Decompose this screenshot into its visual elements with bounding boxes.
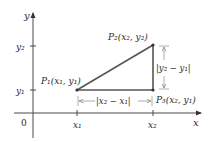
p1-label: P₁(x₁, y₁) [40,76,81,86]
hypotenuse-p1-p2 [77,45,153,90]
point-p2 [151,43,154,46]
y2-tick-label: y₂ [15,42,25,52]
v-meas-label: |y₂ − y₁| [156,63,191,74]
horizontal-measurement: |x₂ − x₁| [78,96,152,107]
axes: y x 0 y₂ y₁ x₁ x₂ [14,10,201,138]
point-p1 [75,88,78,91]
vertical-measurement: |y₂ − y₁| [156,46,191,89]
h-meas-label: |x₂ − x₁| [96,96,131,107]
p3-label: P₃(x₂, y₁) [155,95,196,105]
y-axis-label: y [23,10,30,21]
x-axis-label: x [193,117,199,128]
x1-tick-label: x₁ [73,120,82,130]
origin-label: 0 [21,118,27,128]
x2-tick-label: x₂ [148,120,157,130]
distance-diagram: y x 0 y₂ y₁ x₁ x₂ P₁(x₁, y₁) P₂(x₂, y₂) … [0,0,208,142]
right-triangle [75,43,154,91]
point-p3 [151,88,154,91]
y1-tick-label: y₁ [15,86,25,96]
p2-label: P₂(x₂, y₂) [107,32,148,42]
